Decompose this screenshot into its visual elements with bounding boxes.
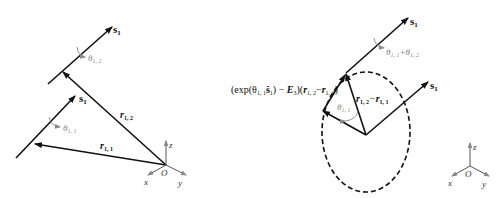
y-axis-label: y	[177, 178, 182, 188]
combined-angle-label: θ1, 1+θ1, 2	[386, 47, 419, 58]
origin-label: O	[465, 169, 472, 179]
lower-angle-label: θ1, 1	[63, 123, 76, 134]
lower-axis-label: s1	[79, 92, 87, 106]
upper-angle-label: θ1, 2	[88, 53, 101, 64]
right-coordinate-axes: z x y O	[447, 142, 489, 189]
rotation-expression-label: (exp(θ1, 1ŝ1) − E3)(r1, 2−r1, 1)	[231, 84, 338, 96]
z-axis-label: z	[168, 140, 173, 150]
x-axis-label: x	[143, 177, 148, 187]
right-axis-label: s1	[430, 79, 438, 93]
vector-r11-label: r1, 1	[100, 140, 113, 152]
upper-axis-label: s1	[113, 23, 121, 37]
vector-r12-label: r1, 2	[120, 109, 133, 121]
y-axis-label: y	[481, 179, 486, 189]
difference-vector-label: r1, 2−r1, 1	[356, 93, 389, 105]
inner-angle-label: θ1, 1	[337, 102, 350, 113]
x-axis-label: x	[447, 178, 452, 188]
origin-label: O	[161, 168, 168, 178]
right-diagram: s1 θ1, 1+θ1, 2 s1 θ1, 1 r1, 2−r1, 1 (exp…	[231, 15, 489, 192]
right-upper-axis-label: s1	[410, 15, 418, 29]
upper-screw-axis-line	[48, 27, 112, 84]
z-axis-label: z	[472, 142, 477, 152]
left-diagram: s1 θ1, 2 r1, 2 s1 θ1, 1 r1, 1 z x y O	[16, 23, 186, 188]
kinematics-figure: s1 θ1, 2 r1, 2 s1 θ1, 1 r1, 1 z x y O	[0, 0, 504, 198]
